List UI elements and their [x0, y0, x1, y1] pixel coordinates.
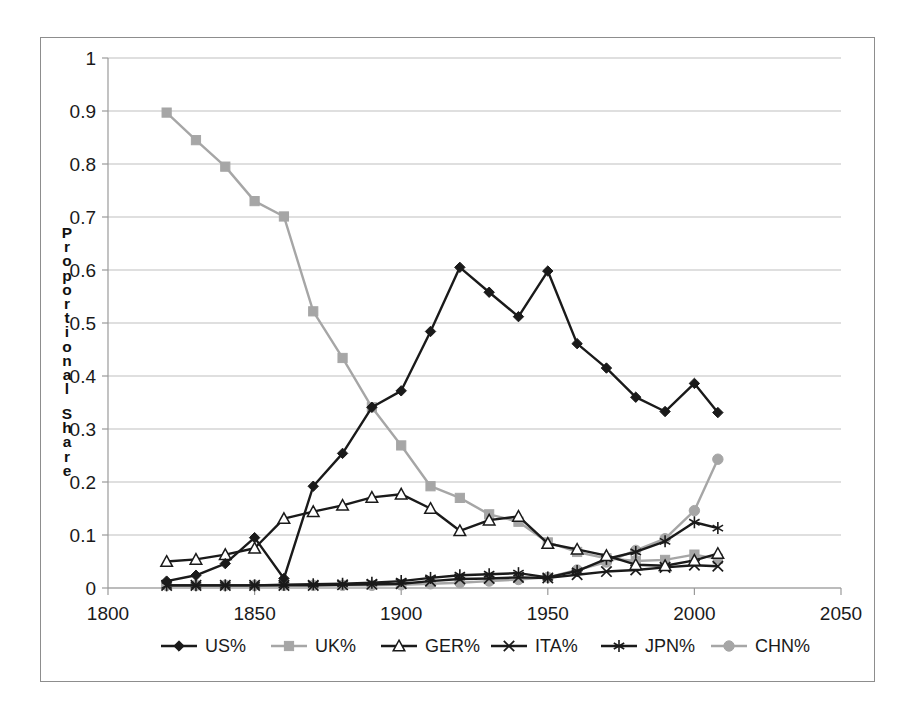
y-axis-ticks: 00.10.20.30.40.50.60.70.80.91 — [70, 48, 108, 599]
legend-label: UK% — [315, 636, 356, 656]
legend-item-ger[interactable]: GER% — [381, 636, 480, 656]
legend-marker — [724, 641, 734, 651]
y-tick-label: 0.7 — [70, 207, 96, 228]
y-tick-label: 0.6 — [70, 260, 96, 281]
data-point-marker — [425, 503, 437, 514]
data-point-marker — [397, 441, 406, 450]
data-point-marker — [279, 212, 288, 221]
line-chart-plot: 00.10.20.30.40.50.60.70.80.9118001850190… — [41, 38, 874, 681]
data-point-marker — [191, 136, 200, 145]
data-point-marker — [713, 454, 723, 464]
data-point-marker — [250, 197, 259, 206]
x-tick-label: 1950 — [527, 603, 569, 624]
chart-frame: 00.10.20.30.40.50.60.70.80.9118001850190… — [40, 37, 875, 682]
x-tick-label: 1800 — [87, 603, 129, 624]
legend-label: JPN% — [645, 636, 695, 656]
x-tick-label: 2050 — [820, 603, 862, 624]
y-tick-label: 0.3 — [70, 419, 96, 440]
data-point-marker — [396, 386, 406, 396]
data-point-marker — [162, 108, 171, 117]
chart-legend: US%UK%GER%ITA%JPN%CHN% — [161, 636, 810, 656]
legend-marker — [174, 641, 184, 651]
series-uk — [162, 108, 722, 566]
legend-label: GER% — [425, 636, 480, 656]
y-tick-label: 0.5 — [70, 313, 96, 334]
y-axis-title: ProportionalShare — [62, 224, 72, 479]
legend-item-us[interactable]: US% — [161, 636, 246, 656]
y-tick-label: 0.2 — [70, 472, 96, 493]
legend-label: ITA% — [535, 636, 578, 656]
legend-marker — [284, 641, 293, 650]
series-line — [167, 267, 718, 581]
legend-item-jpn[interactable]: JPN% — [601, 636, 695, 656]
legend-item-chn[interactable]: CHN% — [711, 636, 810, 656]
x-tick-label: 1850 — [233, 603, 275, 624]
gridlines — [108, 58, 841, 588]
data-point-marker — [309, 307, 318, 316]
data-point-marker — [689, 505, 699, 515]
y-tick-label: 0.9 — [70, 101, 96, 122]
y-tick-label: 1 — [85, 48, 96, 69]
y-axis-title-letter: l — [65, 380, 69, 397]
data-point-marker — [455, 493, 464, 502]
data-point-marker — [338, 353, 347, 362]
legend-label: US% — [205, 636, 246, 656]
y-tick-label: 0.8 — [70, 154, 96, 175]
data-point-marker — [712, 548, 724, 559]
y-tick-label: 0 — [85, 578, 96, 599]
legend-item-uk[interactable]: UK% — [271, 636, 356, 656]
y-axis-title-letter: e — [63, 462, 72, 479]
y-tick-label: 0.4 — [70, 366, 97, 387]
data-point-marker — [426, 482, 435, 491]
series-us — [161, 262, 723, 586]
data-point-marker — [425, 326, 435, 336]
x-tick-label: 2000 — [673, 603, 715, 624]
chart-figure: 00.10.20.30.40.50.60.70.80.9118001850190… — [0, 0, 912, 721]
series-line — [167, 113, 718, 561]
legend-label: CHN% — [755, 636, 810, 656]
legend-item-ita[interactable]: ITA% — [491, 636, 578, 656]
y-tick-label: 0.1 — [70, 525, 96, 546]
data-point-marker — [221, 162, 230, 171]
x-axis-ticks: 180018501900195020002050 — [87, 588, 862, 624]
x-tick-label: 1900 — [380, 603, 422, 624]
data-point-marker — [191, 570, 201, 580]
